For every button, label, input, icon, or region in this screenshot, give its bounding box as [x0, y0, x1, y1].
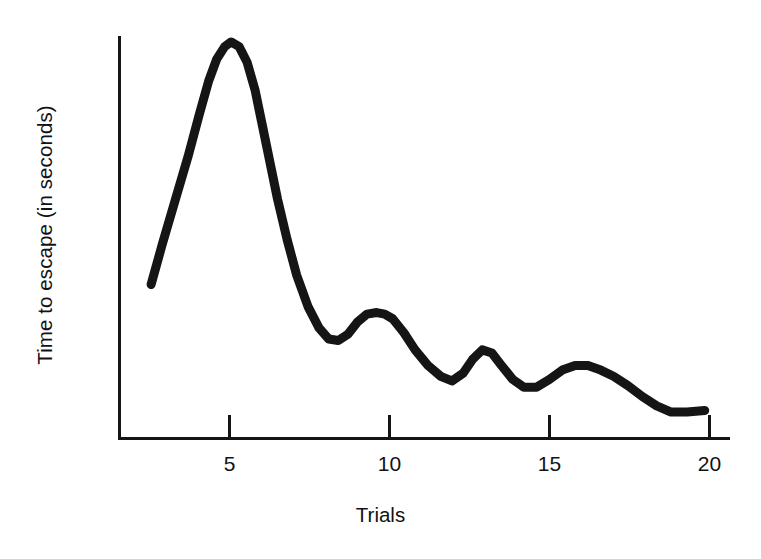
x-tick-label-10: 10 — [360, 452, 420, 476]
x-tick-label-5: 5 — [200, 452, 260, 476]
data-series-line — [151, 42, 705, 412]
chart-figure: Time to escape (in seconds) Trials 5 10 … — [0, 0, 761, 559]
x-tick-label-20: 20 — [680, 452, 740, 476]
x-axis-label: Trials — [0, 503, 761, 527]
x-axis-ticks — [230, 415, 710, 438]
x-tick-label-15: 15 — [520, 452, 580, 476]
